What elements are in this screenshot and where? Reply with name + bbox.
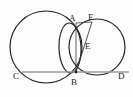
label-c: C [13, 72, 19, 81]
label-d: D [118, 72, 125, 81]
label-a: A [69, 14, 76, 23]
label-e: E [85, 42, 91, 51]
label-b: B [71, 78, 77, 87]
label-f: F [88, 13, 93, 22]
geometry-figure: A F E B C D [0, 0, 133, 97]
figure-canvas [0, 0, 133, 97]
segment-af [76, 22, 92, 23]
point-b-dot [75, 71, 78, 74]
